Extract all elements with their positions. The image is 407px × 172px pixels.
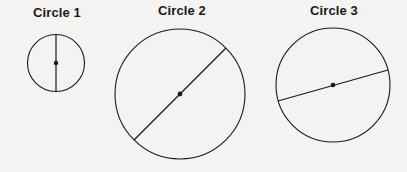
- circle-2-group: [115, 29, 245, 159]
- circles-diagram: Circle 1 Circle 2 Circle 3: [0, 0, 407, 172]
- circles-svg: [0, 0, 407, 172]
- circle-2-label: Circle 2: [158, 3, 206, 18]
- circle-3-center-dot: [331, 83, 336, 88]
- circle-3-label: Circle 3: [310, 3, 358, 18]
- circle-3-group: [276, 28, 390, 142]
- circle-1-label: Circle 1: [33, 5, 81, 20]
- circle-2-center-dot: [178, 92, 183, 97]
- circle-1-group: [28, 35, 85, 92]
- circle-1-center-dot: [54, 61, 58, 65]
